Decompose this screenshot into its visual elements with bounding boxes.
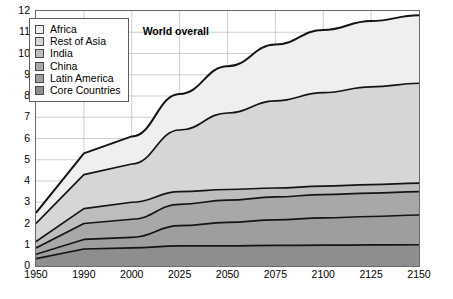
legend-label-latin-america: Latin America xyxy=(50,73,114,84)
legend-label-africa: Africa xyxy=(50,24,77,35)
y-tick-label: 2 xyxy=(6,218,30,229)
x-tick-label: 2125 xyxy=(359,269,382,280)
x-tick-label: 2025 xyxy=(168,269,191,280)
legend-label-rest-of-asia: Rest of Asia xyxy=(50,36,106,47)
legend-item-china: China xyxy=(35,60,121,72)
x-axis-tick-labels: 195019902000202520502075210021252150 xyxy=(0,269,453,289)
legend-swatch-latin-america xyxy=(35,74,44,83)
legend-label-india: India xyxy=(50,48,73,59)
y-tick-label: 12 xyxy=(6,5,30,16)
legend-swatch-africa xyxy=(35,25,44,34)
y-tick-label: 10 xyxy=(6,48,30,59)
x-tick-label: 2100 xyxy=(312,269,335,280)
legend-item-core-countries: Core Countries xyxy=(35,84,121,96)
y-axis-tick-labels: 0123456789101112 xyxy=(2,0,30,277)
y-tick-label: 11 xyxy=(6,26,30,37)
y-tick-label: 1 xyxy=(6,239,30,250)
legend-label-core-countries: Core Countries xyxy=(50,85,121,96)
y-tick-label: 8 xyxy=(6,90,30,101)
y-tick-label: 7 xyxy=(6,111,30,122)
y-tick-label: 4 xyxy=(6,175,30,186)
legend-swatch-core-countries xyxy=(35,86,44,95)
y-tick-label: 9 xyxy=(6,69,30,80)
legend-label-china: China xyxy=(50,61,77,72)
x-tick-label: 2150 xyxy=(407,269,430,280)
legend-item-rest-of-asia: Rest of Asia xyxy=(35,35,121,47)
x-tick-label: 2050 xyxy=(216,269,239,280)
y-tick-label: 3 xyxy=(6,196,30,207)
chart-legend: Africa Rest of Asia India China Latin Am… xyxy=(29,18,129,102)
legend-item-latin-america: Latin America xyxy=(35,72,121,84)
legend-item-africa: Africa xyxy=(35,23,121,35)
y-tick-label: 5 xyxy=(6,154,30,165)
y-tick-label: 6 xyxy=(6,133,30,144)
annotation-world-overall: World overall xyxy=(143,26,209,37)
legend-swatch-china xyxy=(35,62,44,71)
x-tick-label: 1950 xyxy=(24,269,47,280)
population-projection-chart: 0123456789101112 19501990200020252050207… xyxy=(0,0,453,299)
legend-item-india: India xyxy=(35,48,121,60)
x-tick-label: 2075 xyxy=(264,269,287,280)
legend-swatch-india xyxy=(35,49,44,58)
legend-swatch-rest-of-asia xyxy=(35,37,44,46)
x-tick-label: 1990 xyxy=(72,269,95,280)
x-tick-label: 2000 xyxy=(120,269,143,280)
